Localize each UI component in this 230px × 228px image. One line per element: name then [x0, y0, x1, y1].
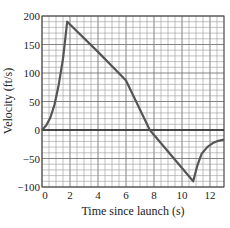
x-tick-label: 6	[123, 189, 129, 201]
y-tick-label: −50	[23, 153, 41, 165]
y-tick-label: −100	[17, 181, 40, 193]
y-tick-label: 150	[24, 39, 41, 51]
x-tick-label: 8	[151, 189, 157, 201]
y-tick-label: 50	[29, 96, 41, 108]
x-tick-label: 0	[42, 189, 48, 201]
y-tick-label: 0	[35, 124, 41, 136]
x-tick-label: 2	[67, 189, 73, 201]
x-tick-label: 10	[177, 189, 189, 201]
y-axis-label: Velocity (ft/s)	[1, 68, 15, 134]
x-tick-label: 4	[95, 189, 101, 201]
y-tick-label: 200	[24, 10, 41, 22]
x-tick-label: 12	[205, 189, 216, 201]
x-axis-label: Time since launch (s)	[81, 204, 184, 218]
y-tick-label: 100	[24, 67, 41, 79]
grid	[42, 16, 224, 187]
velocity-chart: 024681012−100−50050100150200 Time since …	[0, 0, 230, 228]
